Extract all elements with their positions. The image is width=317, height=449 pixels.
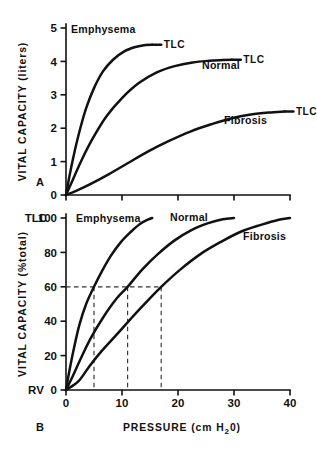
- panel-b-tlc-marker: TLC: [25, 212, 47, 224]
- panel-b-y-ticklabel: 20: [44, 350, 57, 362]
- pressure-volume-figure: 012345VITAL CAPACITY (liters)ATLCTLCTLCE…: [0, 0, 317, 449]
- panel-a-y-ticklabel: 1: [51, 156, 58, 168]
- panel-a-curve-emphysema: [66, 45, 152, 195]
- panel-a-y-ticklabel: 5: [51, 22, 58, 34]
- panel-b-label-normal: Normal: [170, 211, 208, 223]
- panel-b-y-axis-title: VITAL CAPACITY (%total): [17, 231, 28, 377]
- panel-b-y-ticklabel: 40: [44, 315, 57, 327]
- panel-a-y-ticklabel: 4: [51, 56, 58, 68]
- panel-b-rv-marker: RV: [28, 384, 44, 396]
- panel-b-y-ticklabel: 80: [44, 247, 57, 259]
- panel-a-id: A: [36, 176, 44, 188]
- panel-b-x-ticklabel: 10: [116, 397, 129, 409]
- panel-a-tlc-label-fibrosis: TLC: [296, 106, 317, 117]
- panel-a-y-ticklabel: 2: [51, 122, 57, 134]
- panel-a-curve-normal: [66, 60, 232, 195]
- panel-a-y-ticklabel: 3: [51, 89, 57, 101]
- panel-a-label-emphysema: Emphysema: [71, 23, 136, 35]
- figure-container: 012345VITAL CAPACITY (liters)ATLCTLCTLCE…: [0, 0, 317, 449]
- panel-b-y-ticklabel: 0: [51, 384, 57, 396]
- panel-b-x-ticklabel: 30: [228, 397, 241, 409]
- panel-b-x-ticklabel: 40: [284, 397, 297, 409]
- panel-b-y-ticklabel: 60: [44, 281, 57, 293]
- panel-a-label-normal: Normal: [202, 59, 240, 71]
- panel-b-label-emphysema: Emphysema: [76, 212, 141, 224]
- panel-a-tlc-label-emphysema: TLC: [164, 39, 185, 50]
- panel-b-id: B: [36, 421, 44, 433]
- panel-b-curve-fibrosis: [66, 218, 290, 390]
- panel-a-tlc-label-normal: TLC: [243, 54, 264, 65]
- panel-b-label-fibrosis: Fibrosis: [243, 230, 286, 242]
- panel-a-label-fibrosis: Fibrosis: [224, 114, 267, 126]
- x-axis-title: PRESSURE (cm H20): [123, 422, 241, 436]
- panel-b-x-ticklabel: 0: [63, 397, 69, 409]
- panel-b-x-ticklabel: 20: [172, 397, 185, 409]
- panel-a-y-ticklabel: 0: [51, 189, 57, 201]
- panel-a-y-axis-title: VITAL CAPACITY (liters): [17, 42, 28, 181]
